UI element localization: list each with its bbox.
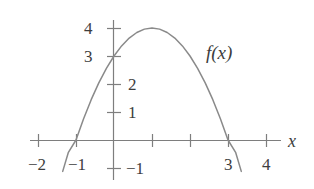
x-tick-label-negative-1: −1 [68, 156, 86, 173]
y-tick-label-negative-1: −1 [126, 160, 144, 177]
y-tick-label-1: 1 [128, 104, 137, 121]
x-tick-label-4: 4 [262, 156, 271, 173]
x-tick-label-negative-2: −2 [28, 156, 46, 173]
function-graph-figure: 4 3 2 1 −1 −2 −1 3 4 f(x) x [0, 0, 314, 189]
function-curve-label: f(x) [206, 43, 232, 62]
x-axis-label: x [288, 132, 296, 150]
y-tick-label-3: 3 [84, 48, 93, 65]
x-tick-label-3: 3 [224, 156, 233, 173]
y-tick-label-2: 2 [128, 76, 137, 93]
y-tick-label-4: 4 [84, 20, 93, 37]
